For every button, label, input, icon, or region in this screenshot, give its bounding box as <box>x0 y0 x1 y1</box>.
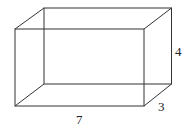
rectangular-prism-diagram: 4 3 7 <box>0 0 190 134</box>
depth-label: 3 <box>158 99 165 114</box>
edge-top-left <box>15 8 44 29</box>
length-label: 7 <box>76 112 83 127</box>
edge-bottom-left <box>15 84 44 106</box>
height-label: 4 <box>175 44 182 59</box>
back-face <box>44 8 172 84</box>
edge-top-right <box>144 8 172 29</box>
front-face <box>15 29 144 106</box>
